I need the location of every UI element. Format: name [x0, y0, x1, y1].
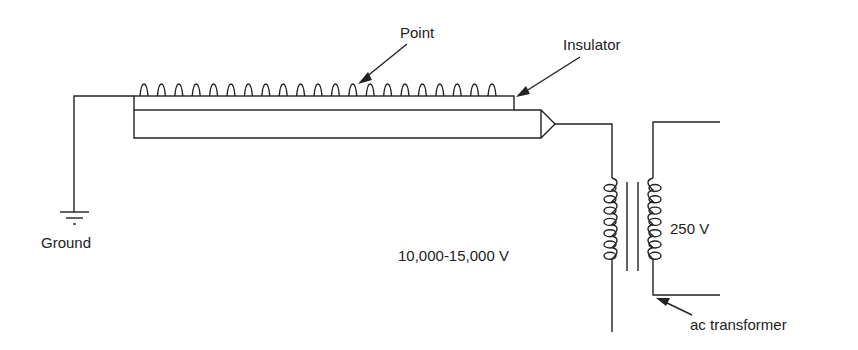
conductor-bar	[134, 110, 612, 178]
point-tip	[297, 84, 305, 96]
point-tip	[401, 84, 409, 96]
point-tip	[175, 84, 183, 96]
point-tip	[244, 84, 252, 96]
arrows	[358, 44, 692, 315]
point-tip	[192, 84, 200, 96]
transformer-label: ac transformer	[690, 316, 787, 333]
point-tip	[210, 84, 218, 96]
point-tip	[366, 84, 374, 96]
high-voltage-label: 10,000-15,000 V	[398, 247, 509, 264]
point-tip	[157, 84, 165, 96]
insulator-label: Insulator	[563, 36, 621, 53]
point-tip	[418, 84, 426, 96]
low-voltage-label: 250 V	[670, 220, 709, 237]
point-tip	[384, 84, 392, 96]
point-electrode	[134, 84, 514, 110]
point-tip	[279, 84, 287, 96]
point-tip	[331, 84, 339, 96]
ground-label: Ground	[41, 234, 91, 251]
point-label: Point	[400, 24, 435, 41]
point-tip	[488, 84, 496, 96]
point-tip	[453, 84, 461, 96]
ground-connection	[60, 96, 134, 224]
point-tip	[262, 84, 270, 96]
point-tip	[471, 84, 479, 96]
electrostatic-discharge-diagram: Point Insulator Ground 10,000-15,000 V 2…	[0, 0, 858, 350]
point-tip	[436, 84, 444, 96]
point-tip	[314, 84, 322, 96]
point-tip	[140, 84, 148, 96]
point-tip	[227, 84, 235, 96]
point-tip	[349, 84, 357, 96]
